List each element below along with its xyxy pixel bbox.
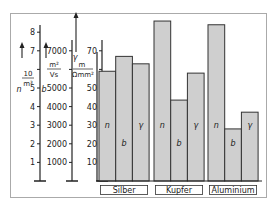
- bar-label: b: [177, 139, 182, 148]
- bar-label: n: [105, 121, 110, 130]
- svg-text:m³: m³: [23, 80, 33, 88]
- svg-text:Ωmm²: Ωmm²: [72, 71, 94, 79]
- svg-text:m²: m²: [49, 61, 59, 69]
- bar-label: n: [160, 121, 165, 130]
- axis-symbol-n: n: [16, 85, 21, 94]
- svg-text:10: 10: [24, 70, 33, 78]
- tick-label: 8: [30, 28, 35, 37]
- tick-label: 1: [30, 158, 35, 167]
- tick-label: 2000: [47, 140, 67, 149]
- bar-label: b: [122, 139, 127, 148]
- axis-symbol-b: b: [41, 85, 46, 94]
- tick-label: 5000: [47, 84, 67, 93]
- bar-label: b: [231, 139, 236, 148]
- tick-label: 3000: [47, 121, 67, 130]
- tick-label: 1000: [47, 158, 67, 167]
- svg-text:m: m: [79, 61, 86, 69]
- bar-kupfer-n: [154, 21, 171, 181]
- arrow-up-icon: [74, 12, 79, 18]
- tick-label: 10: [87, 158, 97, 167]
- tick-label: 4000: [47, 103, 67, 112]
- tick-label: 50: [87, 84, 97, 93]
- tick-label: 40: [87, 103, 97, 112]
- tick-label: 7: [30, 47, 35, 56]
- arrow-up-icon: [44, 42, 49, 48]
- bar-silber-b: [116, 56, 133, 181]
- tick-label: 20: [87, 140, 97, 149]
- category-label-aluminium: Aluminium: [212, 186, 255, 195]
- tick-label: 30: [87, 121, 97, 130]
- category-label-kupfer: Kupfer: [166, 186, 193, 195]
- tick-label: 7000: [47, 47, 67, 56]
- tick-label: 4: [30, 103, 35, 112]
- svg-text:Vs: Vs: [50, 71, 59, 79]
- bar-aluminium-b: [225, 129, 242, 181]
- tick-label: 70: [87, 47, 97, 56]
- bar-aluminium-n: [208, 25, 225, 181]
- tick-label: 2: [30, 140, 35, 149]
- category-label-silber: Silber: [113, 186, 137, 195]
- arrow-up-icon: [20, 42, 25, 48]
- bar-label: n: [214, 121, 219, 130]
- chart: 1234578100020003000400050007000102030405…: [0, 0, 272, 205]
- tick-label: 3: [30, 121, 35, 130]
